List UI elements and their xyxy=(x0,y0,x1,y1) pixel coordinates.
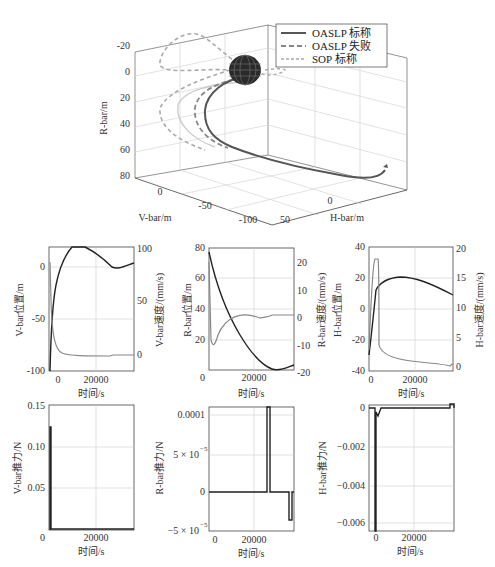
svg-text:0: 0 xyxy=(360,402,365,413)
svg-text:R-bar推力/N: R-bar推力/N xyxy=(153,442,165,495)
y-axis-ticks: 50 0 xyxy=(280,195,333,225)
svg-text:0.05: 0.05 xyxy=(28,482,46,493)
svg-text:20000: 20000 xyxy=(402,532,427,543)
svg-text:0: 0 xyxy=(40,261,45,272)
svg-text:−0.004: −0.004 xyxy=(337,480,365,491)
vbar-position-velocity-plot: 0 -50 -100 100 50 0 0 20000 时间/s V-bar位置… xyxy=(13,243,166,399)
svg-text:60: 60 xyxy=(120,144,130,155)
rbar-position-velocity-plot: 80 60 40 20 0 20 10 0 -10 -20 20000 时间/s… xyxy=(181,242,328,399)
rbar-thrust-plot: 0.0001 5 × 10 −5 0 −5 × 10 −5 0 20000 时间… xyxy=(153,407,294,559)
svg-text:-50: -50 xyxy=(32,313,45,324)
svg-text:0: 0 xyxy=(137,349,142,360)
svg-text:-20: -20 xyxy=(117,40,130,51)
svg-text:40: 40 xyxy=(195,303,205,314)
svg-text:H-bar速度/(mm/s): H-bar速度/(mm/s) xyxy=(473,273,486,348)
svg-text:0.15: 0.15 xyxy=(28,400,46,411)
x-axis-ticks: 0 -50 -100 xyxy=(158,186,258,225)
svg-text:−5: −5 xyxy=(200,445,208,453)
svg-text:-10: -10 xyxy=(297,340,310,351)
svg-text:0: 0 xyxy=(369,374,374,385)
svg-text:−0.002: −0.002 xyxy=(337,441,365,452)
svg-text:时间/s: 时间/s xyxy=(397,545,424,557)
svg-text:时间/s: 时间/s xyxy=(398,387,425,399)
svg-text:0: 0 xyxy=(56,374,61,385)
svg-text:R-bar位置/m: R-bar位置/m xyxy=(181,283,193,337)
svg-text:0: 0 xyxy=(297,312,302,323)
svg-text:0: 0 xyxy=(40,532,45,543)
svg-text:V-bar推力/N: V-bar推力/N xyxy=(11,442,23,494)
svg-text:V-bar位置/m: V-bar位置/m xyxy=(13,283,25,336)
svg-text:80: 80 xyxy=(195,242,205,253)
svg-text:-40: -40 xyxy=(352,365,365,376)
svg-text:-100: -100 xyxy=(27,365,45,376)
trajectory-3d-plot: -20 0 20 40 60 80 R-bar/m 0 -50 -100 V-b… xyxy=(98,24,407,225)
svg-text:20: 20 xyxy=(297,257,307,268)
svg-text:0: 0 xyxy=(158,186,163,197)
svg-text:20000: 20000 xyxy=(403,374,428,385)
sop-nominal-trajectory xyxy=(160,34,285,150)
svg-text:10: 10 xyxy=(456,302,466,313)
target-sphere xyxy=(229,55,261,85)
svg-text:20: 20 xyxy=(120,92,130,103)
svg-text:40: 40 xyxy=(355,241,365,252)
svg-text:H-bar推力/N: H-bar推力/N xyxy=(316,441,328,494)
svg-text:15: 15 xyxy=(456,272,466,283)
svg-text:20: 20 xyxy=(195,334,205,345)
svg-text:-20: -20 xyxy=(297,367,310,378)
svg-text:0: 0 xyxy=(200,372,205,383)
svg-text:100: 100 xyxy=(137,243,152,254)
svg-text:5 × 10: 5 × 10 xyxy=(173,449,199,460)
svg-text:−0.006: −0.006 xyxy=(337,517,365,528)
svg-text:V-bar速度/(mm/s): V-bar速度/(mm/s) xyxy=(153,273,166,347)
svg-text:0: 0 xyxy=(125,66,130,77)
svg-text:时间/s: 时间/s xyxy=(78,545,105,557)
svg-text:20000: 20000 xyxy=(84,374,109,385)
svg-text:R-bar速度/(mm/s): R-bar速度/(mm/s) xyxy=(315,273,328,347)
vbar-thrust-plot: 0.15 0.10 0.05 0 20000 时间/s V-bar推力/N xyxy=(11,400,134,557)
svg-text:80: 80 xyxy=(120,170,130,181)
svg-text:0: 0 xyxy=(200,486,205,497)
svg-text:0.10: 0.10 xyxy=(28,441,46,452)
svg-text:0: 0 xyxy=(213,534,218,545)
svg-text:20: 20 xyxy=(456,243,466,254)
svg-text:时间/s: 时间/s xyxy=(238,387,265,399)
svg-text:10: 10 xyxy=(297,285,307,296)
svg-text:时间/s: 时间/s xyxy=(238,547,265,559)
z-axis-ticks: -20 0 20 40 60 80 xyxy=(117,40,130,181)
svg-text:时间/s: 时间/s xyxy=(78,387,105,399)
hbar-thrust-plot: 0 −0.002 −0.004 −0.006 0 20000 时间/s H-ba… xyxy=(316,402,454,557)
svg-text:50: 50 xyxy=(280,214,290,225)
svg-text:20000: 20000 xyxy=(242,372,267,383)
legend-oaslp-failure: OASLP 失败 xyxy=(312,39,371,52)
svg-text:H-bar位置/m: H-bar位置/m xyxy=(331,283,343,337)
svg-text:−5: −5 xyxy=(200,521,208,529)
legend-sop-nominal: SOP 标称 xyxy=(312,52,357,65)
svg-text:-50: -50 xyxy=(198,200,211,211)
svg-text:-100: -100 xyxy=(239,214,257,225)
svg-text:0: 0 xyxy=(374,532,379,543)
svg-text:20000: 20000 xyxy=(84,532,109,543)
svg-text:5: 5 xyxy=(456,332,461,343)
svg-text:20000: 20000 xyxy=(242,534,267,545)
legend: OASLP 标称 OASLP 失败 SOP 标称 xyxy=(276,24,387,67)
legend-oaslp-nominal: OASLP 标称 xyxy=(312,26,371,39)
y-axis-label: H-bar/m xyxy=(330,212,364,223)
svg-text:0: 0 xyxy=(328,195,333,206)
figure: -20 0 20 40 60 80 R-bar/m 0 -50 -100 V-b… xyxy=(0,0,495,567)
svg-text:0.0001: 0.0001 xyxy=(178,409,206,420)
svg-text:0: 0 xyxy=(456,361,461,372)
z-axis-label: R-bar/m xyxy=(98,101,109,135)
svg-text:−5 × 10: −5 × 10 xyxy=(168,525,199,536)
hbar-position-velocity-plot: 40 20 0 -20 -40 20 15 10 5 0 0 20000 时间/… xyxy=(331,241,486,399)
svg-text:50: 50 xyxy=(137,295,147,306)
svg-text:20: 20 xyxy=(355,272,365,283)
svg-text:-20: -20 xyxy=(352,334,365,345)
x-axis-label: V-bar/m xyxy=(139,212,172,223)
svg-text:60: 60 xyxy=(195,272,205,283)
svg-text:40: 40 xyxy=(120,118,130,129)
svg-text:0: 0 xyxy=(360,303,365,314)
